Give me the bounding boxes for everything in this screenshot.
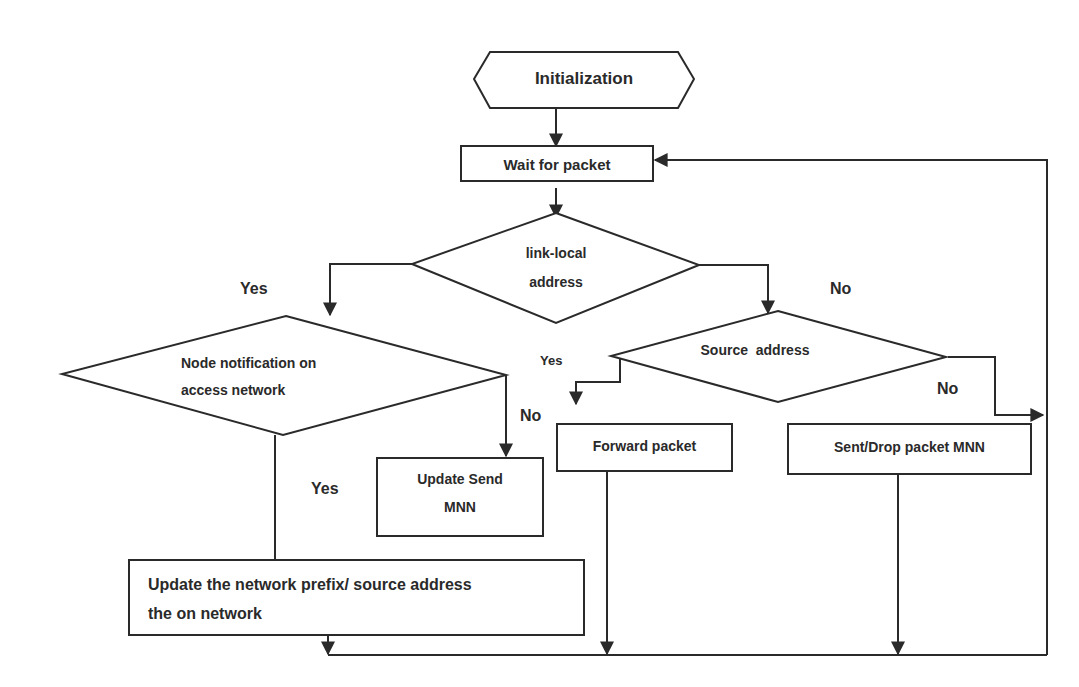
node-notification-diamond bbox=[62, 316, 506, 435]
update-send-label-line2: MNN bbox=[377, 498, 543, 517]
edge-source-no bbox=[948, 357, 1043, 415]
initialization-label: Initialization bbox=[490, 68, 678, 91]
edge-label-node-no: No bbox=[520, 405, 541, 427]
link-local-label-line2: address bbox=[486, 273, 626, 292]
source-address-label: Source address bbox=[680, 341, 830, 360]
edge-linklocal-no bbox=[699, 265, 768, 313]
edge-label-linklocal-no: No bbox=[830, 278, 851, 300]
forward-packet-label: Forward packet bbox=[557, 437, 732, 456]
node-notification-label-line1: Node notification on bbox=[181, 354, 316, 373]
edge-label-linklocal-yes: Yes bbox=[240, 278, 268, 300]
update-prefix-label-line1: Update the network prefix/ source addres… bbox=[148, 574, 472, 596]
edge-label-source-yes: Yes bbox=[540, 352, 562, 370]
edge-label-node-yes: Yes bbox=[311, 478, 339, 500]
edge-linklocal-yes bbox=[330, 264, 412, 315]
link-local-label-line1: link-local bbox=[486, 244, 626, 263]
wait-for-packet-label: Wait for packet bbox=[461, 155, 653, 175]
link-local-diamond bbox=[412, 213, 699, 323]
edge-return-to-wait bbox=[655, 160, 1047, 655]
update-send-label-line1: Update Send bbox=[377, 470, 543, 489]
node-notification-label-line2: access network bbox=[181, 381, 285, 400]
edge-source-yes bbox=[576, 359, 620, 404]
update-prefix-label-line2: the on network bbox=[148, 603, 262, 625]
sent-drop-packet-label: Sent/Drop packet MNN bbox=[788, 438, 1031, 457]
edge-label-source-no: No bbox=[937, 378, 958, 400]
